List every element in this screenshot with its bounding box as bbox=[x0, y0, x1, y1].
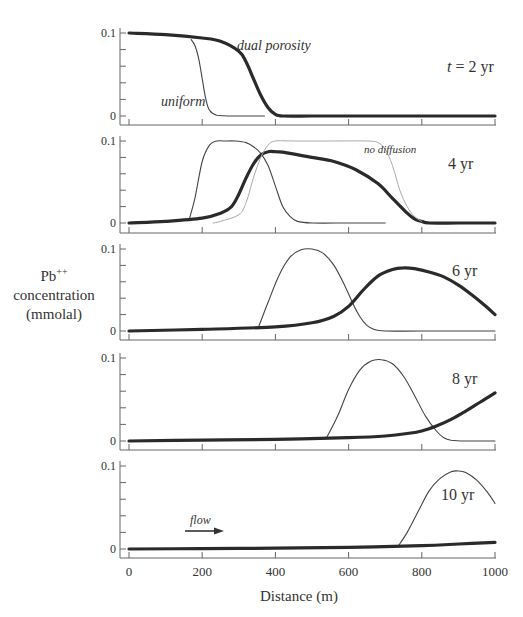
series-dual-porosity bbox=[129, 268, 495, 331]
curve-annotation: dual porosity bbox=[237, 38, 312, 53]
x-axis-label: Distance (m) bbox=[260, 588, 338, 605]
series-dual-porosity bbox=[129, 151, 495, 223]
x-tick-label: 800 bbox=[412, 564, 432, 579]
y-tick-label: 0 bbox=[110, 216, 116, 230]
time-label: t = 2 yr bbox=[447, 58, 494, 76]
time-label: 10 yr bbox=[441, 486, 475, 504]
curve-annotation: no diffusion bbox=[364, 143, 417, 155]
y-tick-label: 0.1 bbox=[101, 459, 116, 473]
panel-5: 00.110 yr bbox=[101, 459, 496, 558]
y-tick-label: 0 bbox=[110, 324, 116, 338]
series-dual-porosity bbox=[129, 393, 495, 441]
series-uniform bbox=[398, 471, 495, 547]
flow-arrow-icon bbox=[185, 528, 224, 535]
panel-4: 00.18 yr bbox=[101, 351, 496, 450]
x-tick-label: 1000 bbox=[482, 564, 508, 579]
x-tick-label: 0 bbox=[126, 564, 133, 579]
flow-label: flow bbox=[190, 513, 211, 527]
y-tick-label: 0.1 bbox=[101, 134, 116, 148]
time-label: 8 yr bbox=[452, 370, 478, 388]
curve-annotation: uniform bbox=[161, 94, 205, 109]
panel-1: 00.1t = 2 yrdual porosityuniform bbox=[101, 26, 496, 125]
series-dual-porosity bbox=[129, 542, 495, 549]
y-tick-label: 0.1 bbox=[101, 26, 116, 40]
time-label: 6 yr bbox=[452, 262, 478, 280]
x-tick-label: 200 bbox=[192, 564, 212, 579]
x-tick-label: 400 bbox=[266, 564, 286, 579]
y-tick-label: 0 bbox=[110, 109, 116, 123]
y-tick-label: 0 bbox=[110, 434, 116, 448]
panel-3: 00.16 yr bbox=[101, 242, 496, 340]
time-label: 4 yr bbox=[448, 155, 474, 173]
y-tick-label: 0 bbox=[110, 542, 116, 556]
x-tick-label: 600 bbox=[339, 564, 359, 579]
panel-2: 00.14 yrno diffusion bbox=[101, 134, 496, 233]
y-axis-label: Pb++ concentration (mmolal) bbox=[2, 262, 106, 324]
y-tick-label: 0.1 bbox=[101, 242, 116, 256]
y-tick-label: 0.1 bbox=[101, 351, 116, 365]
